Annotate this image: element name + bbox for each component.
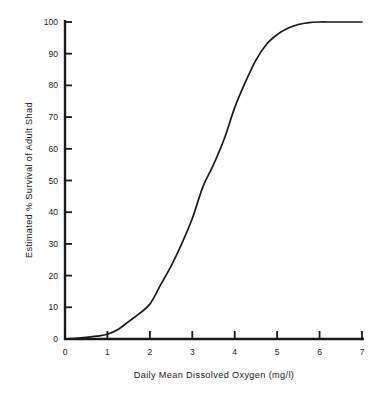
survival-vs-oxygen-chart: 0102030405060708090100 01234567 Daily Me… <box>0 0 382 396</box>
x-tick-label: 1 <box>105 347 110 357</box>
y-tick-label: 20 <box>49 271 59 281</box>
chart-figure: 0102030405060708090100 01234567 Daily Me… <box>0 0 382 396</box>
y-tick-label: 60 <box>49 144 59 154</box>
y-axis-title: Estimated % Survival of Adult Shad <box>24 102 34 258</box>
y-tick-label: 50 <box>49 176 59 186</box>
y-tick-label: 80 <box>49 80 59 90</box>
x-axis-title: Daily Mean Dissolved Oxygen (mg/l) <box>134 370 294 380</box>
y-tick-label: 10 <box>49 302 59 312</box>
y-tick-label: 40 <box>49 207 59 217</box>
x-tick-label: 6 <box>317 347 322 357</box>
x-tick-label: 2 <box>147 347 152 357</box>
x-tick-label: 3 <box>190 347 195 357</box>
y-tick-label: 100 <box>44 17 58 27</box>
y-tick-label: 0 <box>53 334 58 344</box>
y-tick-label: 30 <box>49 239 59 249</box>
x-tick-label: 4 <box>232 347 237 357</box>
y-tick-label: 70 <box>49 112 59 122</box>
x-tick-label: 0 <box>63 347 68 357</box>
x-tick-label: 7 <box>360 347 365 357</box>
x-tick-label: 5 <box>275 347 280 357</box>
y-tick-label: 90 <box>49 49 59 59</box>
